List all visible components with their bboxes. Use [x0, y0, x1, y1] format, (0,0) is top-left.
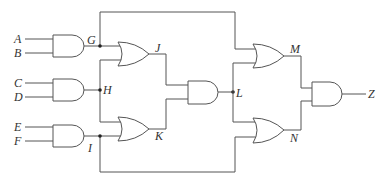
and-gate-l	[188, 81, 218, 104]
or-gate-n	[253, 118, 284, 143]
label-l: L	[235, 86, 243, 100]
and-gate-z	[312, 82, 342, 106]
label-h: H	[102, 83, 113, 97]
logic-circuit-diagram: A B C D E F G H I J K L M N	[0, 0, 387, 183]
label-j: J	[155, 41, 161, 55]
label-input-a: A	[13, 32, 22, 46]
and-gate-i	[53, 125, 84, 147]
and-gate-h	[53, 79, 84, 101]
label-input-d: D	[13, 90, 23, 104]
input-wires	[25, 39, 53, 141]
junction-h	[98, 88, 102, 92]
junction-i	[98, 134, 102, 138]
label-i: I	[87, 141, 93, 155]
or-gate-k	[118, 117, 149, 141]
label-g: G	[87, 33, 96, 47]
junction-g	[98, 44, 102, 48]
or-gate-j	[118, 42, 149, 66]
label-input-b: B	[14, 46, 22, 60]
label-z: Z	[368, 87, 375, 101]
label-input-c: C	[14, 76, 23, 90]
label-m: M	[289, 42, 301, 56]
or-gate-m	[253, 44, 284, 68]
label-input-e: E	[13, 120, 22, 134]
label-input-f: F	[13, 134, 22, 148]
label-k: K	[154, 129, 164, 143]
label-n: N	[289, 131, 299, 145]
and-gate-g	[53, 35, 84, 57]
